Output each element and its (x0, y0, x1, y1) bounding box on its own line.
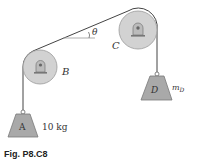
pulley-diagram: θ B C A 10 kg D mD Fig. P8.C8 (0, 0, 197, 165)
angle-theta-label: θ (92, 27, 98, 37)
pulley-b: B (23, 50, 69, 84)
block-d-label: D (150, 85, 158, 95)
pulley-c: C (112, 11, 157, 51)
figure-caption: Fig. P8.C8 (4, 149, 48, 159)
block-a-label: A (18, 122, 26, 132)
block-a-mass-label: 10 kg (42, 122, 68, 132)
pulley-b-label: B (61, 66, 69, 77)
block-a: A 10 kg (8, 110, 68, 137)
block-d: D mD (141, 72, 185, 100)
pulley-c-label: C (112, 40, 120, 51)
block-d-mass-label: mD (172, 83, 185, 93)
